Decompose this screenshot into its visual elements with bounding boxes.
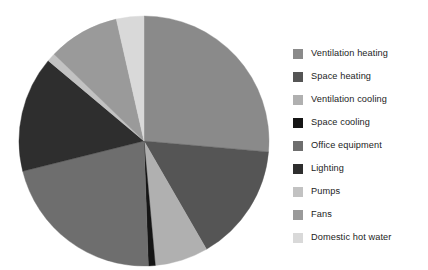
pie-plot-area [18, 15, 270, 267]
legend-swatch-icon [293, 164, 303, 174]
legend-item: Lighting [293, 157, 425, 180]
legend-item: Ventilation heating [293, 42, 425, 65]
legend-swatch-icon [293, 141, 303, 151]
legend-item-label: Ventilation heating [311, 48, 388, 59]
legend-item: Domestic hot water [293, 226, 425, 249]
legend-swatch-icon [293, 72, 303, 82]
legend-swatch-icon [293, 118, 303, 128]
legend-swatch-icon [293, 233, 303, 243]
legend-item-label: Office equipment [311, 140, 382, 151]
legend-item: Pumps [293, 180, 425, 203]
pie-chart-figure: Ventilation heatingSpace heatingVentilat… [0, 0, 428, 270]
legend-item: Office equipment [293, 134, 425, 157]
legend-item-label: Domestic hot water [311, 232, 391, 243]
pie-slice-group [19, 16, 269, 266]
legend-item: Fans [293, 203, 425, 226]
legend-item: Space cooling [293, 111, 425, 134]
legend-item-label: Space heating [311, 71, 371, 82]
legend-item-label: Lighting [311, 163, 344, 174]
legend-item: Ventilation cooling [293, 88, 425, 111]
pie-svg [18, 15, 270, 267]
legend-swatch-icon [293, 95, 303, 105]
legend-item-label: Space cooling [311, 117, 370, 128]
pie-slice [144, 16, 269, 152]
chart-legend: Ventilation heatingSpace heatingVentilat… [293, 42, 425, 249]
legend-swatch-icon [293, 210, 303, 220]
legend-swatch-icon [293, 187, 303, 197]
legend-item: Space heating [293, 65, 425, 88]
legend-item-label: Fans [311, 209, 332, 220]
legend-swatch-icon [293, 49, 303, 59]
legend-item-label: Ventilation cooling [311, 94, 387, 105]
legend-item-label: Pumps [311, 186, 340, 197]
